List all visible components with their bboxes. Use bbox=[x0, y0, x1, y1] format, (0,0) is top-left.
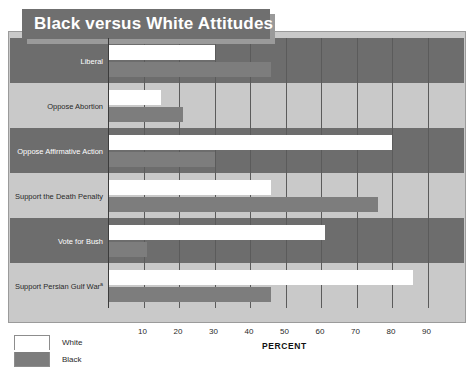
category-label: Support the Death Penalty bbox=[15, 191, 103, 200]
chart-frame: LiberalOppose AbortionOppose Affirmative… bbox=[8, 31, 466, 323]
gridline bbox=[144, 38, 145, 308]
legend-label-black: Black bbox=[62, 355, 82, 364]
legend-item-white: White bbox=[14, 334, 154, 351]
bar-white bbox=[108, 135, 392, 150]
legend-item-black: Black bbox=[14, 351, 154, 368]
bar-white bbox=[108, 45, 215, 60]
x-tick-label: 60 bbox=[316, 327, 325, 336]
x-axis-title: PERCENT bbox=[262, 341, 307, 351]
x-tick-label: 40 bbox=[245, 327, 254, 336]
x-tick-label: 10 bbox=[138, 327, 147, 336]
legend-swatch-white-icon bbox=[14, 335, 50, 350]
chart-page: Black versus White Attitudes LiberalOppo… bbox=[0, 0, 474, 373]
x-tick-label: 20 bbox=[174, 327, 183, 336]
value-axis-line bbox=[108, 38, 109, 308]
bar-black bbox=[108, 242, 147, 257]
bar-black bbox=[108, 152, 215, 167]
gridline bbox=[215, 38, 216, 308]
title-band: Black versus White Attitudes bbox=[22, 9, 270, 39]
bar-black bbox=[108, 287, 271, 302]
bar-white bbox=[108, 225, 325, 240]
plot-area: LiberalOppose AbortionOppose Affirmative… bbox=[9, 32, 465, 322]
category-label: Oppose Abortion bbox=[47, 101, 103, 110]
bar-black bbox=[108, 197, 378, 212]
gridline bbox=[357, 38, 358, 308]
gridline bbox=[286, 38, 287, 308]
x-tick-label: 80 bbox=[387, 327, 396, 336]
legend-label-white: White bbox=[62, 338, 82, 347]
bar-black bbox=[108, 62, 271, 77]
legend-swatch-black-icon bbox=[14, 352, 50, 367]
category-label: Support Persian Gulf Wara bbox=[15, 280, 103, 291]
category-label: Liberal bbox=[80, 56, 103, 65]
gridline bbox=[321, 38, 322, 308]
gridline bbox=[179, 38, 180, 308]
category-label: Oppose Affirmative Action bbox=[17, 146, 103, 155]
bar-white bbox=[108, 180, 271, 195]
gridline bbox=[428, 38, 429, 308]
category-band: Oppose Abortion bbox=[10, 83, 464, 128]
gridline bbox=[250, 38, 251, 308]
bar-white bbox=[108, 90, 161, 105]
gridline bbox=[392, 38, 393, 308]
chart-legend: White Black bbox=[14, 334, 154, 368]
page-title: Black versus White Attitudes bbox=[34, 14, 273, 34]
x-tick-label: 30 bbox=[209, 327, 218, 336]
x-tick-label: 70 bbox=[351, 327, 360, 336]
bar-white bbox=[108, 270, 413, 285]
x-tick-label: 90 bbox=[422, 327, 431, 336]
bar-black bbox=[108, 107, 183, 122]
category-label: Vote for Bush bbox=[58, 236, 103, 245]
x-tick-label: 50 bbox=[280, 327, 289, 336]
